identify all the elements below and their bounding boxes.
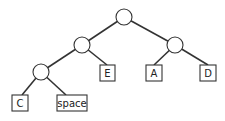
- tree-edges: [22, 17, 208, 95]
- leaf-label: space: [57, 98, 86, 109]
- huffman-tree-diagram: E A D C space: [0, 0, 225, 121]
- edge-root-right: [124, 17, 175, 45]
- leaf-label: A: [151, 68, 158, 79]
- leaf-d: D: [200, 65, 216, 81]
- leaf-a: A: [146, 65, 162, 81]
- leaf-e: E: [100, 65, 115, 81]
- leaf-label: D: [204, 68, 212, 79]
- tree-node-left-left: [33, 64, 49, 80]
- leaf-label: C: [17, 98, 24, 109]
- leaf-c: C: [12, 95, 28, 111]
- leaf-label: E: [104, 68, 110, 79]
- tree-node-left: [74, 37, 90, 53]
- tree-node-root: [116, 9, 132, 25]
- leaf-space: space: [57, 95, 87, 111]
- tree-node-right: [167, 37, 183, 53]
